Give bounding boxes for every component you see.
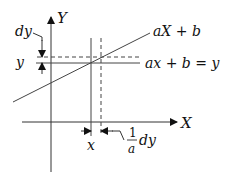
dy-label: dy [15,23,33,39]
dx-fraction-numerator: 1 [129,126,137,140]
y-axis-label: Y [57,9,69,27]
dx-fraction-denominator: a [128,142,135,156]
linear-function-diagram: Y X aX + b ax + b = y y dy x 1 a dy [0,0,227,183]
function-line [13,33,150,102]
x-axis-label: X [180,114,193,132]
dx-fraction-suffix: dy [139,132,157,148]
equation-label: ax + b = y [145,55,220,71]
dy-leader-line [33,33,42,41]
dx-leader-line [112,131,124,140]
x-value-label: x [87,137,95,153]
y-value-label: y [15,54,25,70]
function-line-label: aX + b [153,23,201,39]
